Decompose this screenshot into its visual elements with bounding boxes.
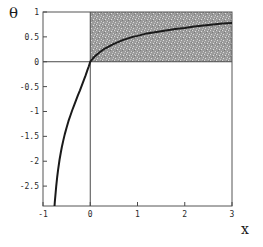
x-tick-label: -1 [38,210,48,219]
y-axis-ticks [43,12,47,186]
x-tick-label: 1 [135,210,140,219]
y-tick-label: 0.5 [25,33,40,42]
y-tick-label: -1.5 [20,132,39,141]
x-axis-ticks [43,202,232,206]
y-tick-label: 0 [34,58,39,67]
plot-figure: 10.50-0.5-1-1.5-2-2.5 -10123 θ x [0,0,263,247]
y-tick-label: 1 [34,8,39,17]
x-axis-tick-labels: -10123 [38,210,234,219]
y-tick-label: -2 [29,157,39,166]
y-axis-tick-labels: 10.50-0.5-1-1.5-2-2.5 [20,8,39,191]
x-tick-label: 0 [88,210,93,219]
y-tick-label: -2.5 [20,182,39,191]
shaded-feasible-region [90,12,232,62]
x-axis-label: x [241,222,249,236]
y-tick-label: -0.5 [20,83,39,92]
y-axis-label: θ [9,6,18,21]
x-tick-label: 2 [182,210,187,219]
x-tick-label: 3 [230,210,235,219]
y-tick-label: -1 [29,107,39,116]
chart-canvas: 10.50-0.5-1-1.5-2-2.5 -10123 [0,0,263,247]
